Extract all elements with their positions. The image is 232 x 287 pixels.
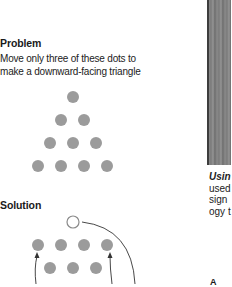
vacated-dot-outline xyxy=(67,216,79,228)
arc-arrow-right xyxy=(82,222,135,284)
problem-triangle-dots xyxy=(32,91,113,172)
arc-arrow-middle xyxy=(110,256,112,284)
arc-arrow-left xyxy=(35,256,37,284)
solution-heading: Solution xyxy=(0,199,41,211)
side-caption: Usin used sign ogy t xyxy=(209,171,231,217)
caption-line: ogy t xyxy=(209,206,231,218)
side-photo-edge xyxy=(207,0,209,165)
caption-lead: Usin xyxy=(209,171,231,183)
arrowhead-left-icon xyxy=(35,252,40,258)
arrowheads xyxy=(35,252,113,258)
side-photo xyxy=(207,0,231,165)
footer-fragment: A xyxy=(210,277,217,287)
caption-line: sign xyxy=(209,194,231,206)
move-arrows xyxy=(35,222,135,284)
solution-dots xyxy=(32,216,113,274)
arrowhead-right-icon xyxy=(108,252,113,258)
caption-line: used xyxy=(209,183,231,195)
